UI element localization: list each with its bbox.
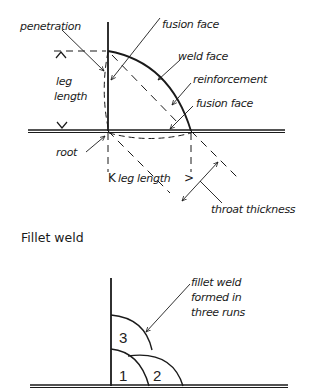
top-fillet-section: K > penetration fusion face weld face re… bbox=[19, 18, 296, 216]
run-1-number: 1 bbox=[119, 367, 127, 384]
label-fillet-line3: three runs bbox=[191, 306, 246, 319]
run-3-bead bbox=[111, 315, 152, 350]
leg-length-top-tick bbox=[56, 52, 66, 58]
label-fillet-line1: fillet weld bbox=[191, 276, 242, 289]
multi-run-fillet-section: 3 1 2 fillet weld formed in three runs bbox=[30, 276, 288, 388]
label-leg-line2: length bbox=[54, 90, 88, 103]
label-weld-face: weld face bbox=[178, 50, 229, 63]
leg-length-bottom-tick bbox=[57, 122, 67, 128]
svg-text:K: K bbox=[108, 171, 117, 185]
label-reinforcement: reinforcement bbox=[193, 73, 268, 86]
label-fillet-line2: formed in bbox=[191, 291, 242, 304]
fillet-weld-diagram: K > penetration fusion face weld face re… bbox=[0, 0, 329, 389]
multi-run-leader bbox=[146, 284, 190, 332]
label-leg-length-horizontal: leg length bbox=[118, 172, 171, 185]
run-3-number: 3 bbox=[119, 329, 127, 346]
svg-text:>: > bbox=[184, 171, 194, 185]
label-root: root bbox=[56, 146, 78, 159]
label-fusion-face-bottom: fusion face bbox=[196, 97, 253, 110]
weld-face-leader bbox=[158, 60, 180, 80]
label-fusion-face-top: fusion face bbox=[162, 18, 219, 31]
root-leader bbox=[86, 136, 105, 152]
run-2-number: 2 bbox=[153, 367, 161, 384]
label-penetration: penetration bbox=[19, 20, 81, 33]
label-leg-line1: leg bbox=[56, 75, 72, 88]
label-throat-thickness: throat thickness bbox=[211, 203, 296, 216]
weld-face-curve bbox=[108, 51, 191, 131]
caption-fillet-weld: Fillet weld bbox=[21, 230, 84, 245]
